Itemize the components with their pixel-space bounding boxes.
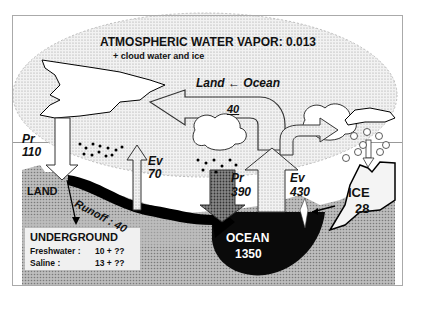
land-evap-label: Ev xyxy=(148,155,163,167)
title: ATMOSPHERIC WATER VAPOR: 0.013 xyxy=(100,36,316,48)
freshwater-label: Freshwater : xyxy=(30,247,81,256)
ocean-evap-label: Ev xyxy=(290,172,305,184)
land-evap-value: 70 xyxy=(148,168,161,180)
freshwater-value: 10 + ?? xyxy=(95,247,125,256)
ice-label: ICE xyxy=(348,186,370,199)
land-precip-label: Pr xyxy=(22,133,35,145)
land-precip-value: 110 xyxy=(22,146,41,158)
subtitle: + cloud water and ice xyxy=(113,52,204,61)
ocean-value: 1350 xyxy=(235,248,262,260)
ice-value: 28 xyxy=(355,202,369,215)
ocean-label: OCEAN xyxy=(226,232,269,244)
land-label: LAND xyxy=(27,186,58,197)
saline-value: 13 + ?? xyxy=(95,259,125,268)
ocean-precip-label: Pr xyxy=(231,172,244,184)
underground-title: UNDERGROUND xyxy=(30,232,118,243)
ocean-precip-value: 390 xyxy=(231,186,251,198)
ice-snow-arrow xyxy=(363,158,374,167)
transport-value: 40 xyxy=(227,104,239,115)
saline-label: Saline : xyxy=(30,259,60,268)
ocean-evap-value: 430 xyxy=(290,186,310,198)
transport-label: Land ← Ocean xyxy=(196,77,280,89)
